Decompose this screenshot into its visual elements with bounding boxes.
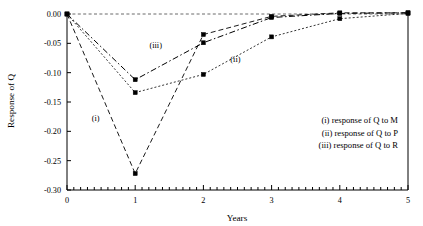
- x-tick-label: 5: [406, 196, 410, 205]
- marker-iii-x1: [133, 78, 137, 82]
- y-tick-label: -0.30: [44, 186, 61, 195]
- x-tick-label: 3: [270, 196, 274, 205]
- y-tick-label: -0.25: [44, 157, 61, 166]
- y-tick-label: -0.20: [44, 127, 61, 136]
- marker-i-x2: [201, 33, 205, 37]
- legend-entry-2: (ii) response of Q to P: [322, 128, 398, 138]
- x-axis-title: Years: [227, 213, 248, 223]
- curve-label-i: (i): [92, 114, 100, 123]
- y-axis-tick-labels: 0.00-0.05-0.10-0.15-0.20-0.25-0.30: [44, 10, 61, 195]
- marker-iii-x3: [270, 16, 274, 20]
- plot-frame: [67, 12, 408, 190]
- legend-entry-3: (iii) response of Q to R: [319, 140, 399, 150]
- curve-label-ii: (ii): [230, 55, 240, 64]
- marker-iii-x0: [65, 12, 69, 16]
- chart-canvas: 0.00-0.05-0.10-0.15-0.20-0.25-0.30 01234…: [0, 0, 423, 226]
- x-tick-label: 2: [201, 196, 205, 205]
- marker-ii-x3: [270, 35, 274, 39]
- y-axis-title: Response of Q: [6, 74, 16, 128]
- x-tick-label: 0: [65, 196, 69, 205]
- marker-iii-x5: [406, 11, 410, 15]
- curve-label-iii: (iii): [149, 41, 162, 50]
- marker-ii-x2: [201, 72, 205, 76]
- legend: (i) response of Q to M(ii) response of Q…: [319, 115, 399, 150]
- y-tick-label: -0.10: [44, 69, 61, 78]
- y-tick-label: -0.15: [44, 98, 61, 107]
- series-markers: [65, 11, 410, 176]
- marker-iii-x2: [201, 41, 205, 45]
- impulse-response-chart: 0.00-0.05-0.10-0.15-0.20-0.25-0.30 01234…: [0, 0, 423, 226]
- marker-iii-x4: [338, 11, 342, 15]
- series-line-iii: [67, 13, 408, 80]
- x-tick-label: 4: [338, 196, 342, 205]
- marker-ii-x1: [133, 91, 137, 95]
- y-tick-label: 0.00: [47, 10, 61, 19]
- x-axis-tick-labels: 012345: [65, 196, 410, 205]
- y-axis-ticks: [67, 14, 71, 190]
- marker-i-x1: [133, 172, 137, 176]
- marker-ii-x4: [338, 17, 342, 21]
- legend-entry-1: (i) response of Q to M: [321, 115, 398, 125]
- x-tick-label: 1: [133, 196, 137, 205]
- y-tick-label: -0.05: [44, 39, 61, 48]
